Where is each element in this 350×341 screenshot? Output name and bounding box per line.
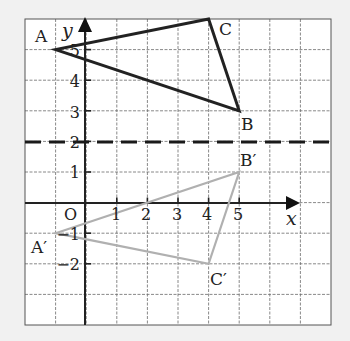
x-tick-label: 5 <box>233 205 243 224</box>
vertex-label-c-prime: C′ <box>210 269 227 289</box>
y-tick-label: 5 <box>70 41 80 60</box>
y-tick-label: 4 <box>70 72 80 91</box>
y-axis-label: y <box>61 19 73 41</box>
x-tick-label: 3 <box>172 205 182 224</box>
vertex-label-a: A <box>34 26 48 46</box>
y-tick-label: 3 <box>70 103 80 122</box>
y-tick-label: −2 <box>56 255 80 274</box>
x-axis-label: x <box>286 207 297 229</box>
x-tick-label: 1 <box>111 205 121 224</box>
y-tick-label: 1 <box>70 163 80 182</box>
y-tick-label: −1 <box>56 225 80 244</box>
origin-label: O <box>64 205 77 224</box>
x-tick-label: 4 <box>202 205 212 224</box>
vertex-label-b-prime: B′ <box>240 150 256 170</box>
vertex-label-c: C <box>219 19 232 39</box>
vertex-label-a-prime: A′ <box>30 237 47 257</box>
x-tick-label: 2 <box>141 205 151 224</box>
coordinate-grid-figure: y x O 1 2 3 4 5 5 4 3 2 1 −1 −2 A B C A′… <box>0 0 350 341</box>
y-tick-label: 2 <box>70 133 80 152</box>
vertex-label-b: B <box>241 114 254 134</box>
